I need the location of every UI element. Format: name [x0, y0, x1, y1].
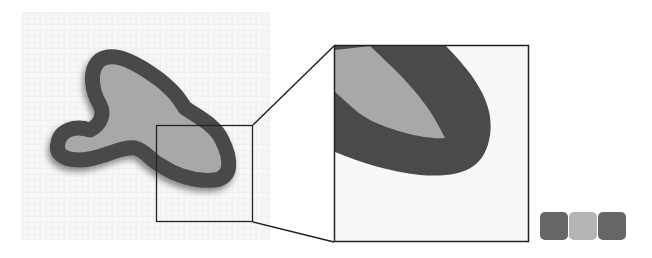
swatch-outline-2: [598, 212, 626, 240]
blob-shape: [57, 57, 228, 181]
swatch-outline: [540, 212, 568, 240]
swatch-fill: [569, 212, 597, 240]
connector-top: [253, 46, 334, 125]
zoom-inset: [335, 40, 529, 242]
connector-bottom: [253, 222, 334, 242]
